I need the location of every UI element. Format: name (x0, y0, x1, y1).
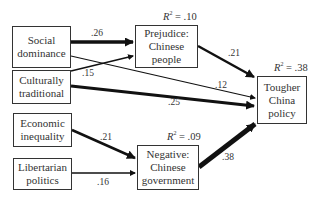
r2-eq: = (283, 62, 294, 73)
node-label-line: inequality (21, 130, 65, 143)
node-label-line: traditional (19, 87, 64, 100)
coef-cultural-prejudice: .15 (82, 68, 94, 78)
r2-eq: = (176, 131, 187, 142)
node-culturally-traditional: Culturally traditional (12, 70, 71, 104)
node-label-line: people (152, 53, 181, 66)
coef-social-tougher: .12 (215, 80, 227, 90)
edge-prejudice-tougher (198, 46, 254, 77)
node-label-line: Chinese (150, 161, 185, 174)
node-label-line: Libertarian (18, 161, 67, 174)
r2-value: .09 (188, 131, 201, 142)
node-label-line: Negative: (147, 148, 190, 161)
r2-negative: R2 = .09 (167, 130, 201, 142)
coef-cultural-tougher: .25 (168, 97, 180, 107)
node-label-line: Prejudice: (144, 27, 189, 40)
node-label-line: Economic (20, 117, 65, 130)
coef-econ-negative: .21 (100, 132, 112, 142)
node-label-line: dominance (17, 47, 65, 60)
node-label-line: government (142, 174, 195, 187)
r2-prejudice: R2 = .10 (163, 10, 197, 22)
node-social-dominance: Social dominance (12, 26, 71, 68)
r2-value: .38 (295, 62, 308, 73)
coef-libertarian-negative: .16 (97, 177, 109, 187)
node-economic-inequality: Economic inequality (13, 113, 72, 147)
node-tougher-policy: Tougher China policy (257, 76, 307, 124)
coef-social-prejudice: .26 (91, 28, 103, 38)
node-label-line: politics (26, 174, 58, 187)
node-label-line: policy (268, 107, 296, 120)
node-negative-government: Negative: Chinese government (137, 145, 199, 190)
node-label-line: Chinese (149, 40, 184, 53)
r2-tougher: R2 = .38 (274, 61, 308, 73)
node-libertarian-politics: Libertarian politics (13, 158, 72, 190)
coef-negative-tougher: .38 (222, 152, 234, 162)
node-label-line: Culturally (19, 74, 64, 87)
r2-eq: = (172, 11, 183, 22)
coef-prejudice-tougher: .21 (228, 48, 240, 58)
r2-value: .10 (184, 11, 197, 22)
node-label-line: China (269, 94, 295, 107)
node-label-line: Tougher (264, 81, 301, 94)
node-label-line: Social (28, 34, 56, 47)
node-prejudice: Prejudice: Chinese people (135, 25, 198, 68)
